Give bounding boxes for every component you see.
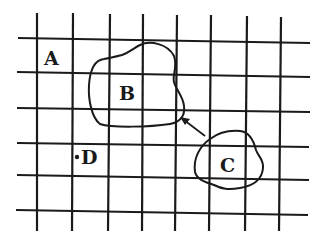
label-d: D [81, 146, 97, 168]
point-d-dot [75, 155, 79, 159]
region-b-outline [89, 43, 184, 127]
grid-hline [17, 72, 310, 77]
label-a: A [43, 47, 59, 69]
arrow-c-to-b [180, 117, 205, 136]
grid-hline [17, 143, 309, 147]
grid-hline [18, 38, 310, 43]
label-c: C [220, 154, 235, 176]
grid-diagram: A B C D [0, 0, 323, 244]
grid-vline [245, 16, 247, 231]
grid-vline [72, 13, 73, 231]
grid-vline [142, 14, 143, 231]
grid-hline [17, 108, 310, 112]
grid-vline [108, 14, 110, 231]
grid-hline [17, 175, 309, 180]
grid-vline [279, 17, 281, 231]
grid-hline [16, 210, 308, 215]
grid-vline [209, 15, 211, 231]
label-b: B [119, 82, 135, 104]
